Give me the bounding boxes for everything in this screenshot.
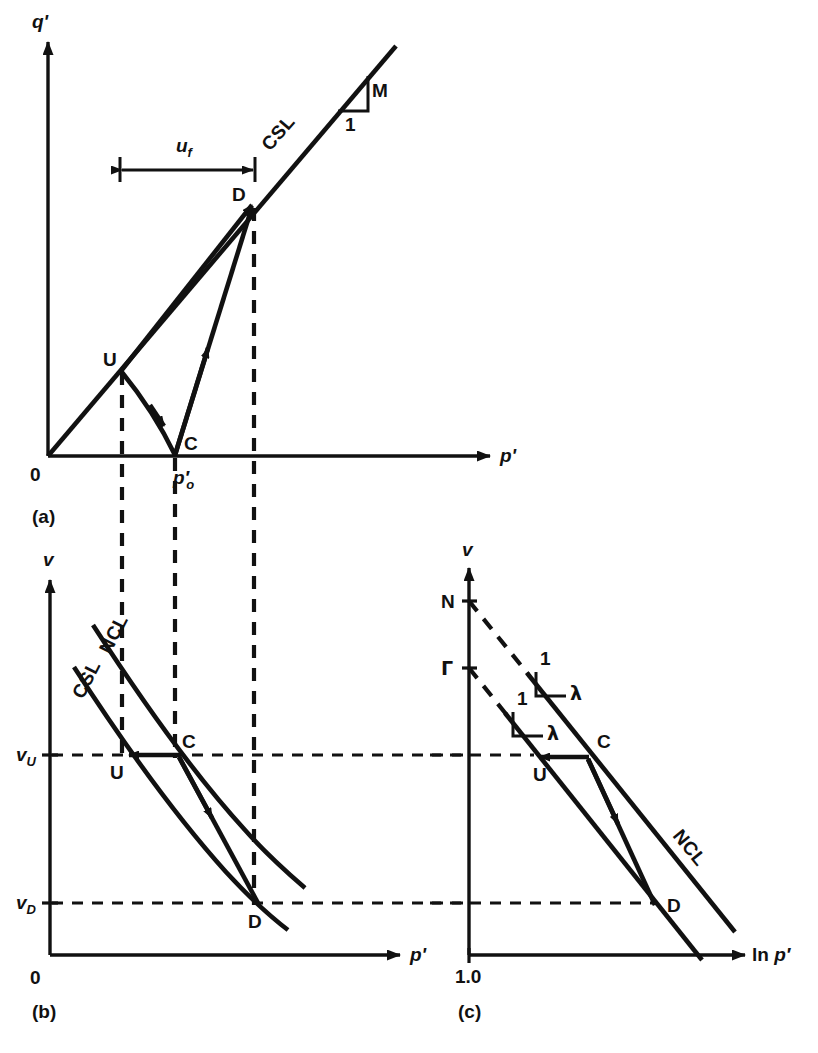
panel-c-y-axis-label: v — [462, 539, 474, 560]
panel-c-csl-dashed — [469, 668, 506, 714]
figure-root: q' p' 0 CSL M 1 uf U C D p′o (a) — [0, 0, 818, 1053]
panel-a-slope-run-label: 1 — [345, 114, 356, 135]
panel-c-slope-run-ncl-label: λ — [570, 682, 582, 704]
panel-a-path-c-u — [121, 371, 175, 455]
panel-a-y-axis-label: q' — [32, 11, 50, 32]
panel-c-ncl-label: NCL — [669, 825, 711, 870]
panel-b: v p' 0 NCL CSL U C D vU vD (b) — [16, 549, 470, 1022]
panel-a-point-d-label: D — [232, 184, 246, 205]
panel-b-origin-label: 0 — [30, 967, 41, 988]
figure-canvas: q' p' 0 CSL M 1 uf U C D p′o (a) — [0, 0, 818, 1053]
panel-a-uf-label: uf — [176, 135, 194, 160]
panel-a: q' p' 0 CSL M 1 uf U C D p′o (a) — [30, 11, 518, 905]
panel-b-point-c-label: C — [182, 731, 196, 752]
panel-a-label: (a) — [32, 506, 55, 527]
panel-a-point-c-label: C — [184, 433, 198, 454]
panel-a-csl-line — [48, 46, 396, 456]
panel-c-point-c-label: C — [597, 731, 611, 752]
panel-b-point-u-label: U — [110, 762, 124, 783]
panel-c-ncl-dashed — [469, 601, 528, 674]
panel-c-slope-triangle-csl — [513, 712, 543, 736]
panel-c-point-gamma-label: Γ — [441, 657, 453, 679]
panel-a-csl-label: CSL — [257, 111, 299, 155]
panel-c-slope-run-csl-label: λ — [547, 722, 559, 744]
panel-c: v ln p′ 1.0 N Γ U C D 1 λ 1 λ NCL (c) — [430, 539, 792, 1022]
panel-c-slope-rise-ncl-label: 1 — [540, 648, 551, 669]
panel-c-point-n-label: N — [441, 591, 455, 612]
panel-c-point-d-label: D — [667, 895, 681, 916]
panel-c-origin-label: 1.0 — [455, 966, 481, 987]
panel-a-path-u-d — [121, 205, 252, 371]
panel-b-y-axis-label: v — [43, 549, 55, 570]
panel-b-csl-curve — [74, 667, 288, 930]
panel-c-x-axis-label: ln p′ — [752, 944, 792, 965]
panel-b-label: (b) — [32, 1001, 56, 1022]
panel-a-slope-m-label: M — [372, 80, 388, 101]
panel-c-slope-rise-csl-label: 1 — [517, 688, 528, 709]
panel-c-label: (c) — [458, 1001, 481, 1022]
panel-b-tick-vd-label: vD — [16, 892, 37, 917]
panel-b-csl-label: CSL — [68, 657, 105, 702]
panel-b-tick-vu-label: vU — [16, 744, 37, 769]
panel-b-x-axis-label: p' — [409, 944, 428, 965]
panel-c-point-u-label: U — [533, 764, 547, 785]
panel-a-origin-label: 0 — [30, 464, 41, 485]
panel-a-x-axis-label: p' — [499, 445, 518, 466]
panel-b-point-d-label: D — [248, 911, 262, 932]
panel-a-point-u-label: U — [103, 349, 117, 370]
panel-c-ncl-line — [527, 673, 735, 932]
